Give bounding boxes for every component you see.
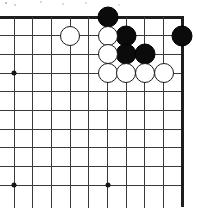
grid-line-horizontal xyxy=(0,91,182,92)
grid-line-vertical xyxy=(88,17,89,208)
grid-line-horizontal xyxy=(0,147,182,148)
star-point xyxy=(12,71,17,76)
black-stone xyxy=(172,25,193,46)
grid-line-horizontal xyxy=(0,185,182,186)
grid-line-vertical xyxy=(32,17,33,208)
white-stone xyxy=(98,63,118,83)
grid-line-horizontal xyxy=(0,35,182,36)
star-point xyxy=(105,183,110,188)
grid-line-horizontal xyxy=(0,166,182,167)
black-stone xyxy=(97,7,118,28)
scan-noise-artifact xyxy=(0,0,197,8)
white-stone xyxy=(98,26,118,46)
diagram-title: Go board corner position xyxy=(0,0,1,1)
white-stone xyxy=(135,63,155,83)
grid-line-vertical xyxy=(51,17,52,208)
board-edge-top xyxy=(0,16,184,19)
star-point xyxy=(12,183,17,188)
white-stone xyxy=(98,44,118,64)
grid-line-horizontal xyxy=(0,129,182,130)
white-stone xyxy=(154,63,174,83)
go-board-diagram: Go board corner position xyxy=(0,0,197,208)
white-stone xyxy=(116,63,136,83)
grid-line-vertical xyxy=(14,17,15,208)
black-stone xyxy=(134,44,155,65)
grid-line-vertical xyxy=(163,17,164,208)
white-stone xyxy=(60,26,80,46)
grid-line-horizontal xyxy=(0,110,182,111)
